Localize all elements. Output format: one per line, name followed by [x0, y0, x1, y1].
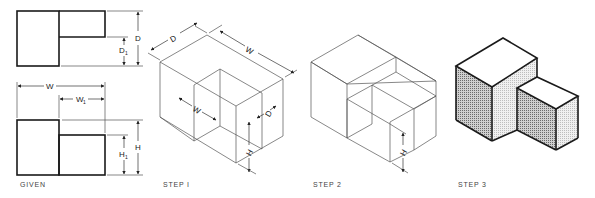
- top-view: D D 1: [17, 11, 143, 66]
- dim-W1-subscript: 1: [83, 99, 86, 105]
- caption-step3: STEP 3: [458, 181, 487, 188]
- step1-dim-W1-label: W: [191, 105, 202, 117]
- step1-panel: D W W D H: [148, 23, 297, 174]
- drawing-canvas: D D 1 W W 1: [0, 0, 595, 198]
- step3-panel: [456, 38, 578, 150]
- dim-W-label: W: [46, 82, 54, 91]
- dim-D1-subscript: 1: [125, 50, 128, 56]
- dim-D-label: D: [135, 34, 141, 43]
- given-panel: D D 1 W W 1: [17, 11, 143, 175]
- caption-step2: STEP 2: [313, 181, 342, 188]
- step1-dim-D1-label: D: [263, 109, 274, 119]
- dim-H-label: H: [135, 143, 141, 152]
- step1-dim-H1-label: H: [244, 148, 255, 158]
- bounding-box: [160, 35, 283, 163]
- dim-H1-subscript: 1: [125, 154, 128, 160]
- step2-dim-H1-label: H: [398, 148, 409, 158]
- step2-panel: H: [311, 35, 436, 173]
- caption-step1: STEP I: [163, 181, 190, 188]
- front-view: W W 1 H H 1: [17, 82, 143, 175]
- caption-given: GIVEN: [20, 181, 46, 188]
- step1-dim-D-label: D: [169, 34, 179, 45]
- step1-dim-W-label: W: [244, 45, 255, 57]
